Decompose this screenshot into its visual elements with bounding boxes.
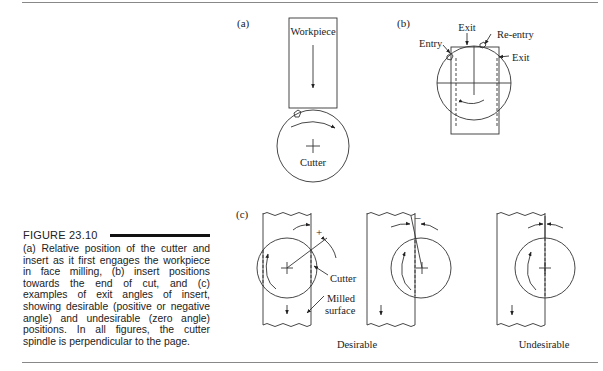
cutter-label-c: Cutter — [330, 273, 357, 284]
panel-c-undesirable — [497, 213, 575, 327]
reentry-pointer — [485, 34, 491, 44]
entry-label: Entry — [419, 38, 443, 49]
bottom-rule — [22, 362, 598, 363]
figure-drawings: (a) Workpiece Cutter (b) Entry Exit Re-e… — [0, 0, 603, 371]
cutter-label: Cutter — [300, 157, 327, 168]
panel-a-label: (a) — [237, 17, 250, 30]
reentry-label: Re-entry — [497, 29, 534, 40]
rotation-arrow-icon — [291, 122, 335, 128]
exit-right-pointer — [499, 56, 509, 57]
workpiece-label: Workpiece — [290, 26, 336, 37]
exit-right-label: Exit — [512, 52, 530, 63]
panel-c-negative — [367, 213, 451, 327]
desirable-label: Desirable — [337, 339, 378, 350]
positive-sign: + — [316, 226, 322, 238]
entry-pointer — [443, 45, 450, 53]
panel-c-label: (c) — [236, 208, 249, 221]
undesirable-label: Undesirable — [519, 339, 570, 350]
exit-top-label: Exit — [458, 22, 476, 33]
workpiece-rect — [451, 47, 499, 134]
rotation-arrow-icon — [463, 100, 484, 104]
milled-label-1: Milled — [327, 293, 356, 304]
negative-sign: – — [414, 211, 421, 223]
panel-b-label: (b) — [397, 17, 410, 30]
panel-b — [437, 33, 511, 134]
milled-label-2: surface — [325, 305, 356, 316]
